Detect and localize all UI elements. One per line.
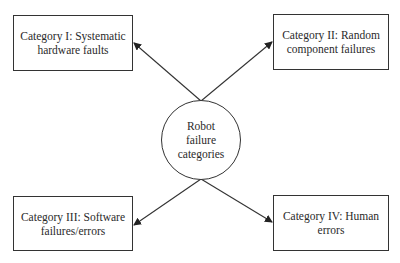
category-1-line-1: Category I: Systematic — [20, 29, 125, 43]
center-line-1: Robot — [178, 119, 225, 133]
category-1-line-2: hardware faults — [20, 43, 125, 57]
category-1-box: Category I: Systematic hardware faults — [13, 15, 133, 71]
arrow-to-category-3 — [134, 179, 201, 225]
category-2-line-1: Category II: Random — [282, 28, 380, 42]
category-2-box: Category II: Random component failures — [273, 14, 389, 70]
category-3-box: Category III: Software failures/errors — [13, 196, 133, 251]
category-3-line-2: failures/errors — [21, 224, 125, 238]
center-line-2: failure — [178, 133, 225, 147]
arrow-to-category-1 — [134, 43, 201, 101]
arrow-to-category-4 — [201, 179, 272, 222]
category-3-line-1: Category III: Software — [21, 210, 125, 224]
center-line-3: categories — [178, 147, 225, 161]
arrow-to-category-2 — [201, 42, 272, 101]
category-4-line-2: errors — [283, 223, 379, 237]
category-4-box: Category IV: Human errors — [273, 195, 389, 251]
category-4-line-1: Category IV: Human — [283, 209, 379, 223]
category-2-line-2: component failures — [282, 42, 380, 56]
center-node: Robot failure categories — [161, 100, 241, 180]
